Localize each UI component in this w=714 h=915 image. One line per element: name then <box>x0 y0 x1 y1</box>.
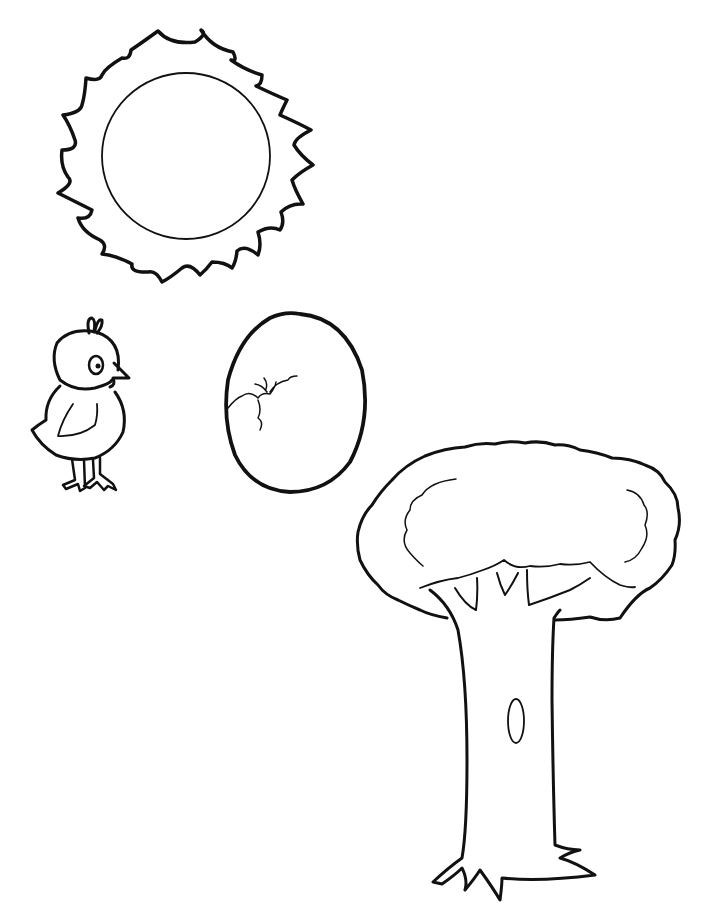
chick-icon <box>32 318 129 491</box>
tree-icon <box>357 442 679 900</box>
coloring-canvas <box>0 0 714 915</box>
sun-icon <box>58 30 313 282</box>
egg-icon <box>226 313 365 492</box>
